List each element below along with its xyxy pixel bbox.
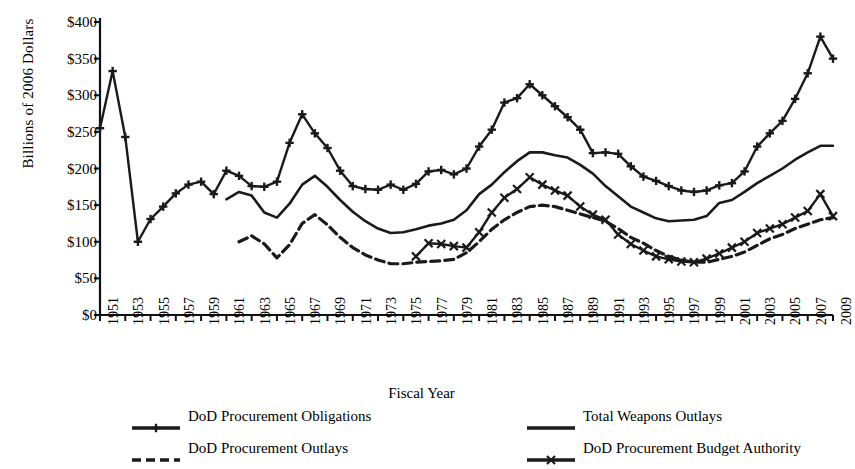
y-axis-tick-label: $100 [67, 233, 97, 250]
x-axis-tick-label: 2003 [763, 297, 779, 325]
line-plus-marker-icon [130, 418, 182, 438]
x-axis-tick-label: 1951 [106, 297, 122, 325]
x-axis-tick-label: 1957 [182, 297, 198, 325]
y-axis-tick-label: $50 [75, 270, 98, 287]
x-axis-tick-label: 1971 [359, 297, 375, 325]
y-axis-tick-label: $0 [82, 307, 97, 324]
legend-label: DoD Procurement Budget Authority [583, 440, 801, 457]
x-axis-tick-label: 1967 [308, 297, 324, 325]
x-axis-tick-label: 2009 [839, 297, 855, 325]
x-axis-tick-label: 1985 [536, 297, 552, 325]
chart-legend: DoD Procurement ObligationsTotal Weapons… [0, 400, 843, 462]
series-line [226, 146, 833, 233]
x-axis-tick-label: 1989 [586, 297, 602, 325]
x-axis-tick-label: 1963 [258, 297, 274, 325]
y-axis-tick-label: $300 [67, 87, 97, 104]
y-axis-tick-label: $400 [67, 14, 97, 31]
series-3 [412, 173, 837, 266]
line-solid-icon [525, 418, 577, 438]
legend-label: Total Weapons Outlays [583, 408, 722, 425]
x-axis-tick-label: 2007 [814, 297, 830, 325]
x-axis-tick-label: 1987 [561, 297, 577, 325]
line-cross-marker-icon [525, 450, 577, 469]
x-axis-tick-label: 1959 [207, 297, 223, 325]
series-1 [226, 146, 833, 233]
y-axis-tick-label: $200 [67, 160, 97, 177]
x-axis-tick-label: 1953 [131, 297, 147, 325]
x-axis-tick-label: 1955 [157, 297, 173, 325]
y-axis-tick-label: $350 [67, 50, 97, 67]
series-line [239, 205, 833, 264]
x-axis-tick-label: 2001 [738, 297, 754, 325]
series-line [416, 177, 833, 262]
series-2 [239, 205, 833, 264]
x-axis-tick-label: 1977 [435, 297, 451, 325]
x-axis-tick-label: 1973 [384, 297, 400, 325]
y-axis-tick-label: $250 [67, 123, 97, 140]
legend-label: DoD Procurement Obligations [188, 408, 371, 425]
x-axis-tick-label: 1995 [662, 297, 678, 325]
x-axis-tick-label: 1993 [637, 297, 653, 325]
series-0 [96, 32, 837, 246]
x-axis-tick-label: 1965 [283, 297, 299, 325]
x-axis-tick-label: 1997 [687, 297, 703, 325]
x-axis-tick-label: 1975 [409, 297, 425, 325]
x-axis-tick-label: 1961 [232, 297, 248, 325]
x-axis-tick-label: 1979 [460, 297, 476, 325]
x-axis-tick-label: 1969 [333, 297, 349, 325]
x-axis-tick-label: 1991 [612, 297, 628, 325]
x-axis-tick-label: 1983 [510, 297, 526, 325]
x-axis-tick-label: 1999 [713, 297, 729, 325]
line-dashed-icon [130, 450, 182, 469]
legend-label: DoD Procurement Outlays [188, 440, 348, 457]
x-axis-tick-label: 2005 [788, 297, 804, 325]
y-axis-tick-label: $150 [67, 197, 97, 214]
x-axis-tick-label: 1981 [485, 297, 501, 325]
plot-area [0, 0, 843, 400]
